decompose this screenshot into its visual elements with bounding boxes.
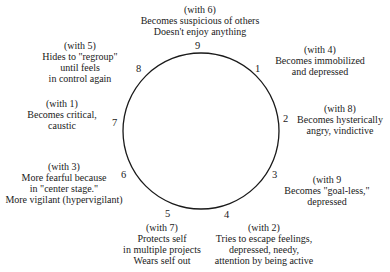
- label-with: (with 3): [0, 161, 128, 172]
- label-line: More vigilant (hypervigilant): [0, 194, 128, 205]
- label-line: Hides to "regroup": [30, 51, 130, 62]
- point-number-5: 5: [165, 208, 170, 219]
- point-number-7: 7: [112, 117, 117, 128]
- label-point-1: (with 4) Becomes immobilized and depress…: [265, 44, 375, 77]
- label-line: depressed, needy,: [204, 244, 324, 255]
- label-point-8: (with 5) Hides to "regroup" until feels …: [30, 40, 130, 84]
- label-with: (with 4): [265, 44, 375, 55]
- label-line: Becomes hysterically: [290, 114, 390, 125]
- label-line: Wears self out: [112, 255, 212, 266]
- label-point-4: (with 2) Tries to escape feelings, depre…: [204, 222, 324, 266]
- label-line: and depressed: [265, 66, 375, 77]
- point-number-1: 1: [255, 63, 260, 74]
- enneagram-circle: [123, 53, 279, 209]
- label-with: (with 2): [204, 222, 324, 233]
- label-line: More fearful because: [0, 172, 128, 183]
- label-line: Becomes "goal-less,": [272, 185, 382, 196]
- point-number-8: 8: [136, 63, 141, 74]
- label-line: in control again: [30, 73, 130, 84]
- label-line: Becomes immobilized: [265, 55, 375, 66]
- label-with: (with 8): [290, 103, 390, 114]
- label-line: Doesn't enjoy anything: [130, 26, 270, 37]
- label-line: Becomes critical,: [14, 109, 110, 120]
- label-point-9: (with 6) Becomes suspicious of others Do…: [130, 4, 270, 37]
- label-line: Tries to escape feelings,: [204, 233, 324, 244]
- label-line: depressed: [272, 196, 382, 207]
- point-number-4: 4: [224, 209, 229, 220]
- label-with: (with 5): [30, 40, 130, 51]
- label-with: (with 7): [112, 222, 212, 233]
- label-with: (with 9: [272, 174, 382, 185]
- label-point-6: (with 3) More fearful because in "center…: [0, 161, 128, 205]
- label-line: Becomes suspicious of others: [130, 15, 270, 26]
- label-line: in multiple projects: [112, 244, 212, 255]
- label-with: (with 6): [130, 4, 270, 15]
- label-point-2: (with 8) Becomes hysterically angry, vin…: [290, 103, 390, 136]
- point-number-2: 2: [283, 113, 288, 124]
- label-point-5: (with 7) Protects self in multiple proje…: [112, 222, 212, 266]
- label-line: in "center stage.": [0, 183, 128, 194]
- label-line: Protects self: [112, 233, 212, 244]
- label-point-7: (with 1) Becomes critical, caustic: [14, 98, 110, 131]
- label-point-3: (with 9 Becomes "goal-less," depressed: [272, 174, 382, 207]
- label-line: attention by being active: [204, 255, 324, 266]
- label-line: angry, vindictive: [290, 125, 390, 136]
- label-line: caustic: [14, 120, 110, 131]
- point-number-9: 9: [195, 40, 200, 51]
- label-line: until feels: [30, 62, 130, 73]
- label-with: (with 1): [14, 98, 110, 109]
